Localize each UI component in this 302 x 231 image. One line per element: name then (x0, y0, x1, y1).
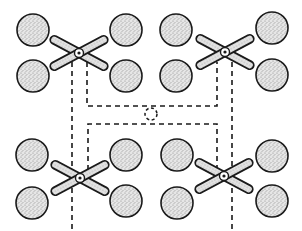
hub-dot (223, 50, 226, 53)
stippled-circle (16, 187, 48, 219)
stippled-circle (110, 60, 142, 92)
stippled-circle (16, 139, 48, 171)
stippled-circle (256, 185, 288, 217)
stippled-circle (110, 185, 142, 217)
unit-groups (16, 12, 288, 219)
stippled-circle (17, 14, 49, 46)
unit-group-top-left (17, 14, 142, 92)
center-marker (145, 108, 157, 120)
stippled-circle (17, 60, 49, 92)
unit-group-bottom-left (16, 139, 142, 219)
stippled-circle (160, 14, 192, 46)
stippled-circle (256, 12, 288, 44)
stippled-circle (256, 140, 288, 172)
center-dashed-circle (145, 108, 157, 120)
stippled-circle (161, 139, 193, 171)
diagram-canvas (0, 0, 302, 231)
stippled-circle (161, 187, 193, 219)
stippled-circle (110, 14, 142, 46)
unit-group-bottom-right (161, 139, 288, 219)
unit-group-top-right (160, 12, 288, 92)
stippled-circle (110, 139, 142, 171)
layout-diagram (0, 0, 302, 231)
dashed-connection-lines (72, 62, 232, 231)
hub-dot (222, 174, 225, 177)
stippled-circle (256, 59, 288, 91)
hub-dot (78, 176, 81, 179)
hub-dot (77, 51, 80, 54)
stippled-circle (160, 60, 192, 92)
